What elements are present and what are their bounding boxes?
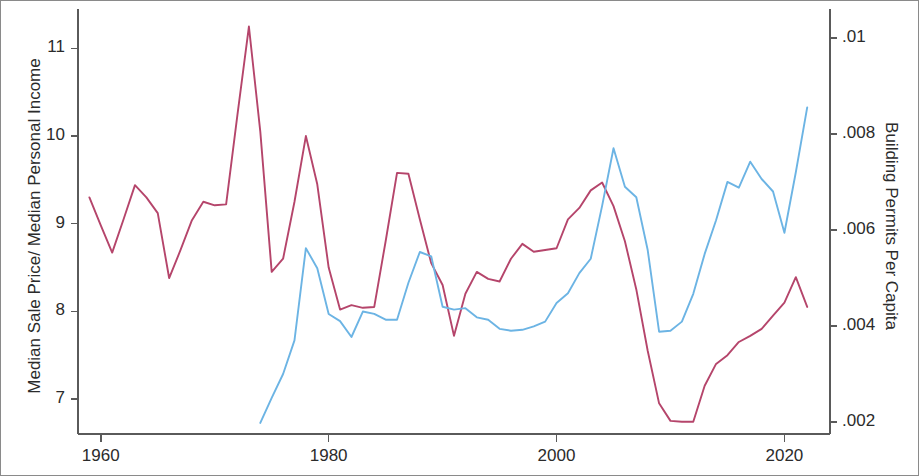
chart-figure: Median Sale Price/ Median Personal Incom… [0, 0, 919, 476]
y-axis-right-tick-label: .002 [842, 411, 875, 431]
chart-plot-area [1, 1, 919, 476]
x-axis-tick-label: 1980 [279, 446, 379, 466]
y-axis-left-tick-label: 9 [1, 213, 65, 233]
series-line-building-permits [260, 107, 807, 423]
y-axis-left-tick-label: 8 [1, 300, 65, 320]
tick-marks [71, 38, 837, 442]
y-axis-right-tick-label: .01 [842, 27, 866, 47]
x-axis-tick-label: 2000 [507, 446, 607, 466]
y-axis-left-tick-label: 11 [1, 37, 65, 57]
series-line-price-to-income [89, 27, 807, 422]
y-axis-right-tick-label: .008 [842, 123, 875, 143]
y-axis-right-tick-label: .004 [842, 315, 875, 335]
y-axis-right-tick-label: .006 [842, 219, 875, 239]
y-axis-left-tick-label: 7 [1, 388, 65, 408]
y-axis-left-tick-label: 10 [1, 125, 65, 145]
series-lines [89, 27, 807, 423]
y-axis-right-title: Building Permits Per Capita [881, 26, 901, 426]
x-axis-tick-label: 1960 [51, 446, 151, 466]
x-axis-tick-label: 2020 [734, 446, 834, 466]
